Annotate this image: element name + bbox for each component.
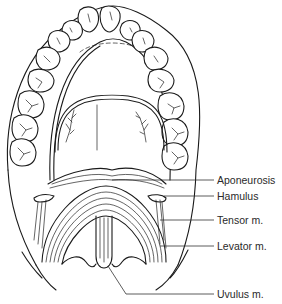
soft-palate [22, 168, 188, 290]
label-levator-muscle: Levator m. [217, 240, 267, 252]
label-aponeurosis: Aponeurosis [217, 174, 275, 186]
palate-diagram: Aponeurosis Hamulus Tensor m. Levator m.… [0, 0, 282, 304]
teeth [10, 6, 188, 170]
label-hamulus: Hamulus [217, 190, 258, 202]
hard-palate [55, 95, 167, 152]
label-tensor-muscle: Tensor m. [217, 214, 263, 226]
label-uvulus-muscle: Uvulus m. [217, 288, 264, 300]
